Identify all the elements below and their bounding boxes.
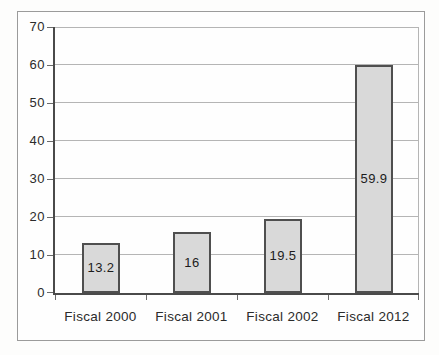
x-axis-tick-0 bbox=[55, 295, 56, 300]
x-axis-tick-4 bbox=[418, 295, 419, 300]
chart-frame: 01020304050607013.2Fiscal 200016Fiscal 2… bbox=[17, 11, 425, 341]
y-axis-label-40: 40 bbox=[15, 133, 45, 149]
y-axis-label-50: 50 bbox=[15, 95, 45, 111]
x-axis-label-fiscal-2000: Fiscal 2000 bbox=[55, 309, 146, 325]
gridline-70 bbox=[55, 27, 419, 28]
bar-value-label-fiscal-2001: 16 bbox=[162, 255, 222, 271]
y-axis-label-0: 0 bbox=[15, 285, 45, 301]
bar-value-label-fiscal-2002: 19.5 bbox=[253, 248, 313, 264]
y-axis-label-30: 30 bbox=[15, 171, 45, 187]
x-axis-label-fiscal-2002: Fiscal 2002 bbox=[237, 309, 328, 325]
plot-area: 01020304050607013.2Fiscal 200016Fiscal 2… bbox=[55, 27, 419, 293]
x-axis-tick-3 bbox=[328, 295, 329, 300]
bar-value-label-fiscal-2000: 13.2 bbox=[71, 260, 131, 276]
x-axis-line bbox=[53, 293, 419, 295]
y-axis-label-10: 10 bbox=[15, 247, 45, 263]
y-axis-label-20: 20 bbox=[15, 209, 45, 225]
x-axis-tick-1 bbox=[146, 295, 147, 300]
x-axis-label-fiscal-2001: Fiscal 2001 bbox=[146, 309, 237, 325]
x-axis-label-fiscal-2012: Fiscal 2012 bbox=[328, 309, 419, 325]
y-axis-label-60: 60 bbox=[15, 57, 45, 73]
y-axis-label-70: 70 bbox=[15, 19, 45, 35]
y-axis-line bbox=[53, 27, 55, 295]
x-axis-tick-2 bbox=[237, 295, 238, 300]
plot-right-border bbox=[418, 27, 419, 293]
bar-value-label-fiscal-2012: 59.9 bbox=[344, 171, 404, 187]
figure-canvas: 01020304050607013.2Fiscal 200016Fiscal 2… bbox=[0, 0, 439, 355]
